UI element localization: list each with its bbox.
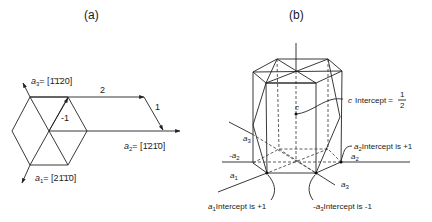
panel-b: (b) [208, 8, 413, 212]
step-label-minus1: -1 [61, 113, 69, 123]
panel-a-label: (a) [84, 8, 99, 22]
plane-trace-left [253, 59, 277, 173]
panel-a: (a) 2 1 -1 a3= [1̄1̄20] a2= [1̄21̄0] a1=… [12, 8, 180, 184]
step-label-2: 2 [100, 85, 105, 95]
edge-right [341, 71, 342, 162]
miller-bravais-diagram: (a) 2 1 -1 a3= [1̄1̄20] a2= [1̄21̄0] a1=… [0, 0, 432, 222]
a3-axis-upper [229, 122, 252, 134]
a1-axis-arrow [22, 165, 30, 183]
bottom-diagonal-2 [267, 149, 328, 173]
c-intercept-leader [297, 99, 343, 114]
c-point-label: c [295, 103, 299, 112]
svg-text:a2= [1̄21̄0]: a2= [1̄21̄0] [124, 141, 165, 152]
neg-a2-label: -a2 [229, 151, 240, 161]
a3-axis-lower [316, 173, 335, 185]
a3-lower-label: a3 [341, 180, 349, 190]
a3-axis-arrow [23, 83, 30, 97]
c-intercept-label: cIntercept = 1 2 [348, 90, 406, 110]
a3-intercept-dot [314, 171, 317, 174]
step-1-arrow [144, 97, 163, 130]
svg-text:a3= [1̄1̄20]: a3= [1̄1̄20] [31, 76, 72, 87]
a1-intercept-label: a1Intercept is +1 [208, 202, 267, 212]
svg-text:a1= [21̄1̄0]: a1= [21̄1̄0] [35, 173, 76, 184]
svg-text:1: 1 [400, 90, 405, 99]
edge-back-left-hidden [277, 59, 279, 149]
a1-axis [218, 173, 267, 192]
svg-text:cIntercept =: cIntercept = [348, 96, 393, 105]
a1-label: a1 [230, 171, 238, 181]
a2-vector-label: a2= [1̄21̄0] [124, 141, 165, 152]
a2-intercept-label: a2Intercept is +1 [354, 142, 413, 152]
a3-intercept-label: -a3Intercept is -1 [313, 202, 372, 212]
svg-text:2: 2 [400, 101, 405, 110]
edge-front-left [266, 83, 267, 173]
a3-vector-label: a3= [1̄1̄20] [31, 76, 72, 87]
a1-intercept-leader [268, 175, 275, 200]
a1-intercept-dot [265, 171, 268, 174]
a2-label: a2 [351, 152, 359, 162]
step-label-1: 1 [155, 102, 160, 112]
a3-upper-label: a3 [243, 134, 251, 144]
a1-vector-label: a1= [21̄1̄0] [35, 173, 76, 184]
panel-b-label: (b) [289, 8, 304, 22]
a3-intercept-leader [309, 175, 315, 200]
